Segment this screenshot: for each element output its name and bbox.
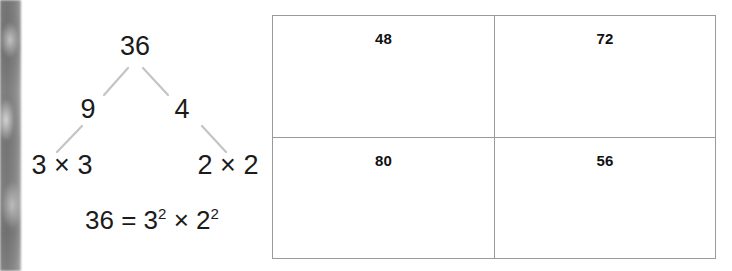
grid-cell-1-value: 48: [273, 30, 494, 47]
grid-cell-3[interactable]: 80: [273, 137, 494, 258]
grid-cell-1[interactable]: 48: [273, 16, 494, 137]
factor-leaf-right: 2 × 2: [182, 152, 274, 179]
factor-tree-diagram: 36 9 4 3 × 3 2 × 2 36 = 32 × 22: [0, 0, 268, 271]
answer-grid: 48 72 80 56: [272, 15, 716, 259]
prime-factorization-equation: 36 = 32 × 22: [52, 207, 252, 233]
factor-node-root: 36: [112, 33, 158, 60]
grid-cell-4-value: 56: [495, 152, 715, 169]
grid-cell-4[interactable]: 56: [494, 137, 715, 258]
factor-node-right: 4: [162, 96, 202, 123]
grid-cell-3-value: 80: [273, 152, 494, 169]
factor-leaf-left: 3 × 3: [16, 152, 108, 179]
branch-root-to-left: [104, 68, 128, 95]
branch-left-to-leaf: [57, 126, 82, 152]
branch-right-to-leaf: [202, 126, 226, 152]
factor-node-left: 9: [68, 96, 108, 123]
equation-exponent-2: 2: [211, 205, 219, 222]
grid-cell-2-value: 72: [495, 30, 715, 47]
equation-middle: × 2: [166, 205, 210, 235]
branch-root-to-right: [143, 68, 168, 95]
equation-base: 36 = 3: [85, 205, 158, 235]
grid-cell-2[interactable]: 72: [494, 16, 715, 137]
